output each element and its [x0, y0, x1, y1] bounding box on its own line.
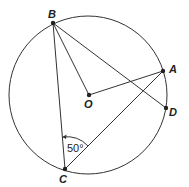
label-d: D	[169, 106, 177, 118]
angle-arrow-icon	[63, 135, 67, 140]
circle-diagram: B A D O C 50°	[0, 0, 189, 187]
point-a	[161, 69, 165, 73]
point-d	[164, 106, 168, 110]
segment-bc	[53, 23, 65, 169]
label-b: B	[48, 8, 56, 20]
diagram-canvas: B A D O C 50°	[0, 0, 189, 187]
point-c	[63, 167, 67, 171]
label-a: A	[168, 63, 177, 75]
segment-oa	[89, 71, 163, 95]
segment-bd	[53, 23, 166, 108]
label-c: C	[59, 173, 68, 185]
segment-ca	[65, 71, 163, 169]
point-b	[51, 21, 55, 25]
angle-label: 50°	[67, 142, 84, 154]
point-o	[87, 93, 91, 97]
label-o: O	[84, 98, 93, 110]
